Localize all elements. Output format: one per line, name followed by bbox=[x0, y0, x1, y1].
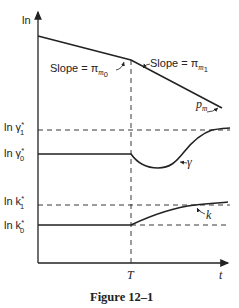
k0-label: ln k*0 bbox=[4, 218, 24, 235]
gamma1-label: ln γ*1 bbox=[4, 120, 24, 137]
gamma-pointer bbox=[180, 162, 187, 163]
gamma0-label: ln γ*0 bbox=[4, 146, 24, 163]
x-axis-label: t bbox=[219, 268, 223, 282]
y-axis-label: ln bbox=[22, 14, 31, 26]
x-tick-T: T bbox=[127, 268, 135, 282]
gamma-label: γ bbox=[187, 155, 192, 169]
k1-label: ln k*1 bbox=[4, 194, 24, 211]
k-pointer bbox=[197, 208, 205, 214]
slope-before-label: Slope = πm0 bbox=[50, 62, 108, 79]
gamma-curve bbox=[38, 128, 230, 168]
k-label: k bbox=[206, 208, 212, 222]
figure-12-1: ln T t Slope = πm0 Slope = πm1 pm ln γ*1… bbox=[0, 0, 239, 308]
slope-before-pointer bbox=[116, 62, 124, 70]
slope-after-label: Slope = πm1 bbox=[150, 57, 208, 74]
pm-pointer bbox=[207, 108, 218, 112]
figure-caption: Figure 12–1 bbox=[90, 290, 153, 304]
